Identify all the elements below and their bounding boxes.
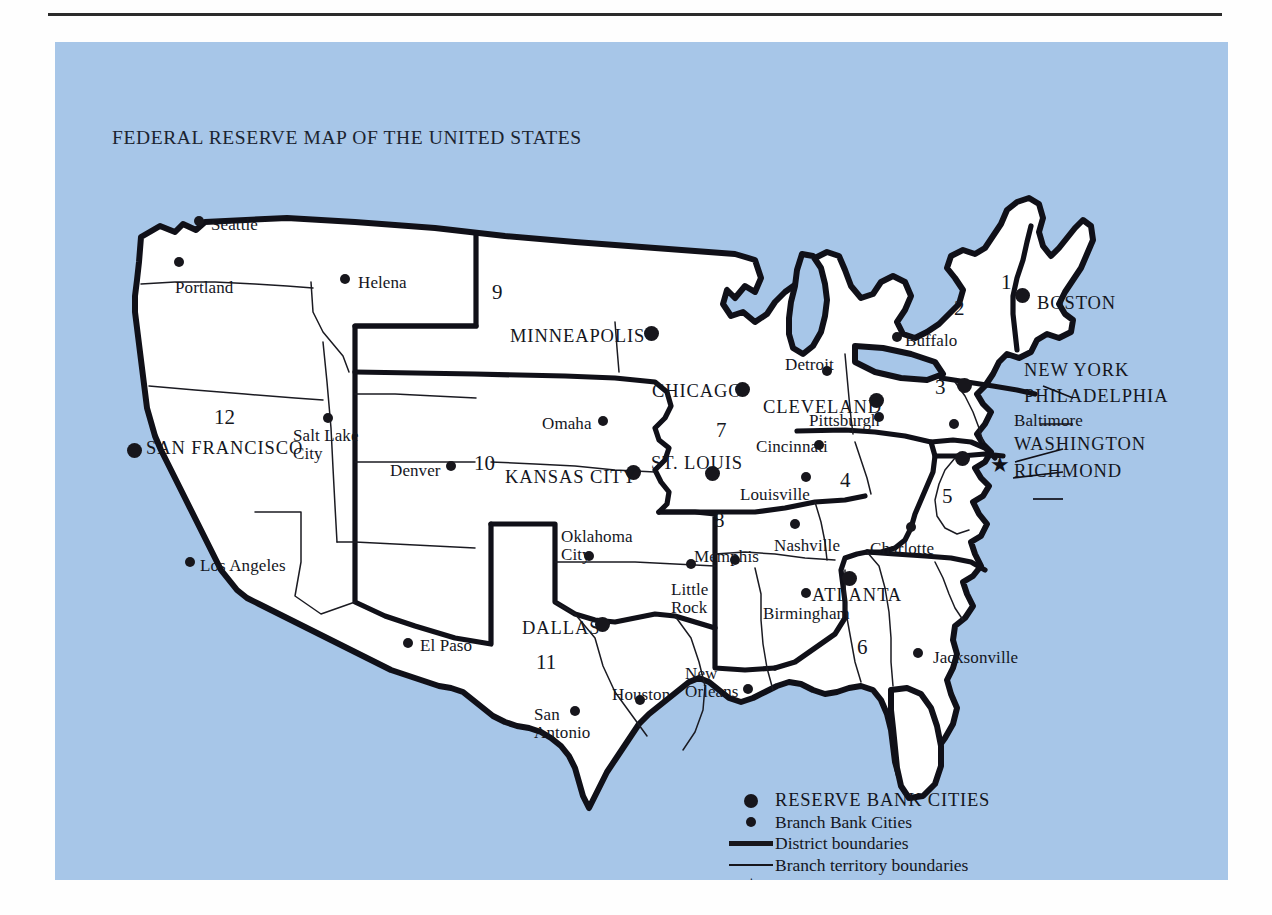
city-label-el-paso: El Paso bbox=[420, 637, 472, 655]
city-label-cincinnati: Cincinnati bbox=[756, 438, 828, 456]
city-dot-seattle[interactable] bbox=[194, 216, 204, 226]
city-dot-new-orleans[interactable] bbox=[743, 684, 753, 694]
city-dot-philadelphia[interactable] bbox=[957, 378, 972, 393]
legend-row-reserve-dot: RESERVE BANK CITIES bbox=[727, 790, 1157, 812]
board-of-governors-star-icon: ★ bbox=[990, 455, 1010, 475]
city-dot-louisville[interactable] bbox=[801, 472, 811, 482]
city-dot-el-paso[interactable] bbox=[403, 638, 413, 648]
district-number-1: 1 bbox=[1001, 270, 1012, 295]
district-number-7: 7 bbox=[716, 418, 727, 443]
map-legend: RESERVE BANK CITIESBranch Bank CitiesDis… bbox=[727, 790, 1157, 880]
city-label-st-louis: ST. LOUIS bbox=[651, 454, 743, 473]
city-label-san-antonio: SanAntonio bbox=[534, 706, 590, 741]
district-number-8: 8 bbox=[714, 508, 725, 533]
city-label-charlotte: Charlotte bbox=[870, 540, 934, 558]
city-label-chicago: CHICAGO bbox=[652, 382, 743, 401]
district-number-9: 9 bbox=[492, 280, 503, 305]
city-label-philadelphia: PHILADELPHIA bbox=[1024, 387, 1168, 406]
city-label-washington: WASHINGTON bbox=[1014, 435, 1146, 454]
city-dot-atlanta[interactable] bbox=[842, 571, 857, 586]
city-label-detroit: Detroit bbox=[785, 356, 834, 374]
map-page: FEDERAL RESERVE MAP OF THE UNITED STATES… bbox=[0, 0, 1272, 915]
city-label-jacksonville: Jacksonville bbox=[933, 649, 1018, 667]
city-dot-salt-lake-city[interactable] bbox=[323, 413, 333, 423]
legend-label: Board of Governors of the Federal Reserv… bbox=[775, 876, 1133, 880]
city-dot-boston[interactable] bbox=[1015, 288, 1030, 303]
city-dot-los-angeles[interactable] bbox=[185, 557, 195, 567]
city-label-memphis: Memphis bbox=[694, 548, 759, 566]
legend-label: Branch Bank Cities bbox=[775, 812, 912, 833]
city-dot-birmingham[interactable] bbox=[801, 588, 811, 598]
city-dot-portland[interactable] bbox=[174, 257, 184, 267]
district-number-5: 5 bbox=[942, 484, 953, 509]
city-label-dallas: DALLAS bbox=[522, 619, 600, 638]
legend-row-thin-line: Branch territory boundaries bbox=[727, 855, 1157, 877]
thin-line-icon bbox=[727, 855, 775, 877]
city-label-new-orleans: NewOrleans bbox=[685, 665, 739, 700]
legend-label: RESERVE BANK CITIES bbox=[775, 790, 990, 811]
star-icon: ★ bbox=[727, 876, 775, 880]
city-dot-san-francisco[interactable] bbox=[127, 443, 142, 458]
city-label-little-rock: LittleRock bbox=[671, 581, 708, 616]
city-label-birmingham: Birmingham bbox=[763, 605, 850, 623]
city-label-portland: Portland bbox=[175, 279, 233, 297]
city-label-atlanta: ATLANTA bbox=[812, 586, 902, 605]
city-label-san-francisco: SAN FRANCISCO bbox=[146, 439, 303, 458]
city-label-louisville: Louisville bbox=[740, 486, 810, 504]
city-dot-charlotte[interactable] bbox=[906, 522, 916, 532]
legend-label: Branch territory boundaries bbox=[775, 855, 968, 876]
city-dot-baltimore[interactable] bbox=[949, 419, 959, 429]
city-label-kansas-city: KANSAS CITY bbox=[505, 468, 637, 487]
legend-label: District boundaries bbox=[775, 833, 909, 854]
city-dot-omaha[interactable] bbox=[598, 416, 608, 426]
city-label-baltimore: Baltimore bbox=[1014, 412, 1083, 430]
city-label-los-angeles: Los Angeles bbox=[200, 557, 286, 575]
city-dot-helena[interactable] bbox=[340, 274, 350, 284]
city-label-richmond: RICHMOND bbox=[1014, 462, 1122, 481]
legend-row-thick-line: District boundaries bbox=[727, 833, 1157, 855]
federal-reserve-map-panel: FEDERAL RESERVE MAP OF THE UNITED STATES… bbox=[55, 42, 1228, 880]
city-label-oklahoma-city: OklahomaCity bbox=[561, 528, 633, 563]
city-label-nashville: Nashville bbox=[774, 537, 840, 555]
top-divider-rule bbox=[48, 13, 1222, 16]
district-number-4: 4 bbox=[840, 468, 851, 493]
city-label-buffalo: Buffalo bbox=[905, 332, 957, 350]
city-dot-jacksonville[interactable] bbox=[913, 648, 923, 658]
district-number-11: 11 bbox=[536, 650, 556, 675]
city-label-minneapolis: MINNEAPOLIS bbox=[510, 327, 645, 346]
branch-dot-icon bbox=[727, 812, 775, 834]
district-number-10: 10 bbox=[474, 451, 495, 476]
district-number-12: 12 bbox=[214, 405, 235, 430]
city-label-seattle: Seattle bbox=[211, 216, 258, 234]
city-label-omaha: Omaha bbox=[542, 415, 592, 433]
city-dot-denver[interactable] bbox=[446, 461, 456, 471]
legend-row-branch-dot: Branch Bank Cities bbox=[727, 812, 1157, 834]
city-label-houston: Houston bbox=[612, 686, 670, 704]
reserve-dot-icon bbox=[727, 790, 775, 812]
thick-line-icon bbox=[727, 833, 775, 855]
city-dot-minneapolis[interactable] bbox=[644, 326, 659, 341]
city-label-pittsburgh: Pittsburgh bbox=[809, 412, 880, 430]
city-label-helena: Helena bbox=[358, 274, 407, 292]
city-dot-buffalo[interactable] bbox=[892, 332, 902, 342]
legend-row-star: ★Board of Governors of the Federal Reser… bbox=[727, 876, 1157, 880]
district-number-3: 3 bbox=[935, 375, 946, 400]
district-number-6: 6 bbox=[857, 635, 868, 660]
city-label-denver: Denver bbox=[390, 462, 441, 480]
page-title: FEDERAL RESERVE MAP OF THE UNITED STATES bbox=[112, 127, 582, 149]
city-dot-richmond[interactable] bbox=[955, 451, 970, 466]
city-label-new-york: NEW YORK bbox=[1024, 361, 1129, 380]
city-dot-nashville[interactable] bbox=[790, 519, 800, 529]
city-label-boston: BOSTON bbox=[1037, 294, 1116, 313]
city-label-salt-lake-city: Salt LakeCity bbox=[293, 427, 359, 462]
district-number-2: 2 bbox=[954, 296, 965, 321]
